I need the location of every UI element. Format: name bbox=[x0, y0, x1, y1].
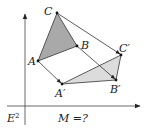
point-b bbox=[76, 45, 79, 48]
point-c bbox=[56, 12, 59, 15]
label-c: C bbox=[44, 5, 53, 18]
label-a: A bbox=[27, 55, 36, 68]
triangle-a-prime-b-prime-c-prime bbox=[62, 55, 121, 84]
transformation-diagram: A B C A′ B′ C′ E2 M =? bbox=[0, 0, 149, 133]
question-text: M =? bbox=[57, 112, 88, 125]
label-b: B bbox=[80, 39, 89, 52]
point-a-prime bbox=[61, 83, 64, 86]
label-b-prime: B′ bbox=[109, 83, 121, 96]
triangle-abc bbox=[38, 13, 77, 61]
label-c-prime: C′ bbox=[119, 42, 130, 55]
space-label: E2 bbox=[6, 112, 20, 125]
point-a bbox=[37, 60, 40, 63]
vector-a-to-a-prime bbox=[38, 61, 61, 83]
label-a-prime: A′ bbox=[54, 87, 66, 100]
point-b-prime bbox=[115, 79, 118, 82]
space-exponent: 2 bbox=[15, 112, 19, 120]
